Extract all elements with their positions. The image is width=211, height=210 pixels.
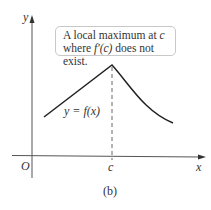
callout-line1: A local maximum at [63, 29, 159, 41]
y-axis-arrow-icon [30, 15, 35, 23]
x-axis-label: x [196, 160, 201, 175]
x-axis [12, 156, 200, 158]
figure-caption: (b) [103, 184, 117, 199]
curve-label: y = f(x) [64, 104, 100, 119]
c-tick-label: c [108, 160, 113, 175]
origin-label: O [21, 159, 30, 174]
x-axis-arrow-icon [198, 155, 206, 160]
y-axis-label: y [23, 10, 28, 25]
callout-derivative: f′(c) [94, 42, 112, 54]
callout-line2: where [63, 42, 94, 54]
callout-var-c: c [159, 29, 164, 41]
callout-box: A local maximum at c where f′(c) does no… [55, 26, 176, 56]
